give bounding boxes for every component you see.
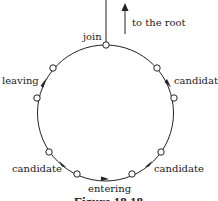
arrow-entering-icon <box>101 177 109 182</box>
label-candidate-right-bottom: candidate <box>154 164 204 174</box>
up-arrowhead-icon <box>122 3 129 11</box>
cycle-nodes <box>34 42 177 177</box>
label-entering: entering <box>88 184 131 194</box>
figure-caption: Figure 18.18 <box>74 195 143 201</box>
node-left <box>34 95 40 101</box>
label-candidate-right-top: candidate <box>174 76 218 86</box>
label-join: join <box>83 32 102 42</box>
node-bottom-right <box>129 171 135 177</box>
label-to-the-root: to the root <box>132 18 186 28</box>
label-leaving: leaving <box>2 76 39 86</box>
node-lower-right <box>158 149 164 155</box>
node-right <box>171 95 177 101</box>
node-upper-left <box>50 65 56 71</box>
node-join <box>103 42 109 48</box>
node-upper-right <box>154 65 160 71</box>
node-bottom-left <box>74 171 80 177</box>
arrow-leaving-icon <box>41 79 47 88</box>
cycle-circle <box>38 45 174 181</box>
node-lower-left <box>46 149 52 155</box>
label-candidate-left-bottom: candidate <box>12 164 62 174</box>
